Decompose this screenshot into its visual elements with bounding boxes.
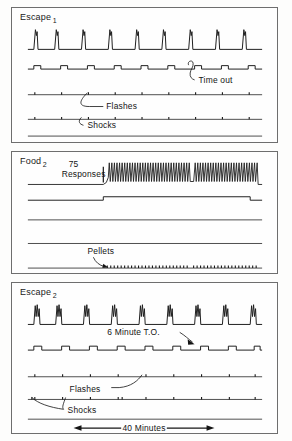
row-pellets-food-2 <box>28 266 262 269</box>
annotation-pellets-label: Pellets <box>87 246 114 256</box>
annotation-shocks-escape-2: Shocks <box>32 397 97 415</box>
annotation-shocks-label: Shocks <box>87 120 116 130</box>
plot-escape-2: 6 Minute T.O. <box>12 283 277 433</box>
scale-arrow-right-icon <box>207 425 215 431</box>
scale-bar-label: 40 Minutes <box>122 423 165 433</box>
annotation-flashes: Flashes <box>81 93 137 112</box>
annotation-timeout-duration-label: 6 Minute T.O. <box>107 327 160 337</box>
annotation-pellets: Pellets <box>87 246 114 268</box>
annotation-responses-count: 75 <box>69 159 79 169</box>
row-shocks-escape-1 <box>28 117 262 119</box>
annotation-shocks-label: Shocks <box>68 405 97 415</box>
annotation-flashes-escape-2: Flashes <box>70 375 142 394</box>
scale-bar-time: 40 Minutes <box>74 423 215 433</box>
scale-arrow-left-icon <box>74 425 82 431</box>
row-responses-escape-1 <box>28 30 262 50</box>
row-timeout-escape-1 <box>28 66 262 69</box>
panel-escape-1: Escape1 Time out <box>11 7 278 143</box>
row-flashes-escape-1 <box>28 92 262 95</box>
row-shocks-escape-2 <box>28 397 262 400</box>
timeout-arrowhead <box>188 339 195 344</box>
panel-food-2: Food2 75 Responses Pellets <box>11 151 278 274</box>
annotation-responses-calibration: 75 Responses <box>62 159 106 183</box>
row-responses-escape-2 <box>28 305 262 325</box>
row-timeout-food-2 <box>28 197 262 200</box>
row-timeout-escape-2 <box>28 346 262 350</box>
annotation-time-out-label: Time out <box>199 75 234 85</box>
annotation-timeout-duration: 6 Minute T.O. <box>107 327 194 344</box>
plot-escape-1: Time out Flashes <box>12 8 277 142</box>
figure-canvas: Escape1 Time out <box>0 0 292 441</box>
plot-food-2: 75 Responses Pellets <box>12 152 277 273</box>
annotation-flashes-label: Flashes <box>70 384 101 394</box>
annotation-time-out: Time out <box>188 61 233 85</box>
annotation-flashes-label: Flashes <box>106 102 137 112</box>
row-flashes-escape-2 <box>28 374 262 377</box>
panel-escape-2: Escape2 6 Minute T.O. <box>11 282 278 434</box>
annotation-responses-label: Responses <box>62 169 106 179</box>
